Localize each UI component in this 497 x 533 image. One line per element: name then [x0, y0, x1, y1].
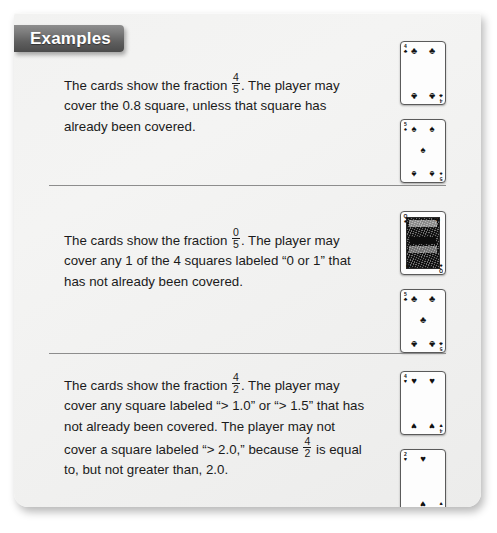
examples-banner: Examples	[14, 25, 124, 52]
card-corner-bottom-right: 5♣	[438, 340, 444, 351]
card-corner-bottom-right: 4♣	[438, 92, 444, 103]
examples-banner-label: Examples	[30, 29, 111, 49]
card-corner-bottom-right: 5♠	[438, 170, 444, 181]
page-content-area: Examples The cards show the fraction 45.…	[14, 13, 481, 507]
card-corner-top-left: Q♠	[403, 214, 409, 225]
card-pip: ♠	[427, 124, 437, 134]
card-pip: ♠	[418, 145, 428, 155]
card-four-of-clubs: 4♣ 4♣ ♣ ♣ ♣ ♣	[400, 41, 446, 105]
card-pip: ♠	[409, 169, 419, 179]
card-pip: ♣	[427, 46, 437, 56]
example-divider-2	[49, 353, 446, 354]
example-1-cards: 4♣ 4♣ ♣ ♣ ♣ ♣ 5♠ 5♠ ♠ ♠ ♠ ♠ ♠	[400, 41, 446, 183]
example-3-lead: The cards show the fraction	[64, 378, 231, 393]
card-pip: ♠	[427, 169, 437, 179]
example-2-cards: Q♠ Q♠ ♠ ♠ 5♣ 5♣ ♣ ♣ ♣ ♣ ♣	[400, 211, 446, 353]
card-pip: ♥	[427, 421, 437, 431]
example-3-text: The cards show the fraction 42. The play…	[64, 373, 369, 481]
card-corner-top-left: 2♥	[403, 452, 409, 463]
card-pip: ♠	[409, 124, 419, 134]
card-pip: ♠	[436, 216, 440, 224]
card-corner-top-left: 5♣	[403, 292, 409, 303]
fraction-denominator: 2	[303, 447, 311, 459]
card-pip: ♥	[427, 376, 437, 386]
card-corner-top-left: 4♣	[403, 44, 409, 55]
example-2-text: The cards show the fraction 05. The play…	[64, 228, 364, 292]
card-pip: ♥	[418, 499, 428, 508]
card-pip: ♥	[418, 454, 428, 464]
card-pip: ♣	[409, 294, 419, 304]
fraction-denominator: 2	[232, 383, 240, 395]
fraction-numerator: 4	[232, 72, 240, 83]
card-pip: ♥	[409, 376, 419, 386]
example-2-lead: The cards show the fraction	[64, 233, 231, 248]
card-pip: ♣	[427, 294, 437, 304]
card-five-of-spades: 5♠ 5♠ ♠ ♠ ♠ ♠ ♠	[400, 119, 446, 183]
card-pip: ♣	[409, 91, 419, 101]
example-1-lead: The cards show the fraction	[64, 78, 231, 93]
fraction-zero-fifths: 05	[232, 227, 240, 250]
card-pip: ♠	[406, 262, 410, 270]
fraction-denominator: 5	[232, 83, 240, 95]
example-divider-1	[49, 185, 446, 186]
face-card-artwork	[406, 217, 440, 269]
card-five-of-clubs: 5♣ 5♣ ♣ ♣ ♣ ♣ ♣	[400, 289, 446, 353]
fraction-four-fifths: 45	[232, 72, 240, 95]
fraction-denominator: 5	[232, 238, 240, 250]
card-two-of-hearts: 2♥ 2♥ ♥ ♥	[400, 449, 446, 507]
card-pip: ♣	[427, 339, 437, 349]
worksheet-page: Examples The cards show the fraction 45.…	[14, 13, 481, 507]
card-four-of-hearts: 4♥ 4♥ ♥ ♥ ♥ ♥	[400, 371, 446, 435]
card-corner-bottom-right: 4♥	[438, 422, 444, 433]
fraction-four-halves: 42	[232, 372, 240, 395]
card-corner-bottom-right: Q♠	[438, 262, 444, 273]
card-queen-of-spades: Q♠ Q♠ ♠ ♠	[400, 211, 446, 275]
fraction-numerator: 4	[232, 372, 240, 383]
fraction-numerator: 4	[303, 436, 311, 447]
example-3-cards: 4♥ 4♥ ♥ ♥ ♥ ♥ 2♥ 2♥ ♥ ♥	[400, 371, 446, 507]
card-pip: ♣	[427, 91, 437, 101]
fraction-four-halves-second: 42	[303, 436, 311, 459]
card-pip: ♣	[409, 339, 419, 349]
card-corner-bottom-right: 2♥	[438, 500, 444, 508]
card-corner-top-left: 4♥	[403, 374, 409, 385]
card-pip: ♣	[409, 46, 419, 56]
fraction-numerator: 0	[232, 227, 240, 238]
card-pip: ♥	[409, 421, 419, 431]
card-pip: ♣	[418, 315, 428, 325]
example-1-text: The cards show the fraction 45. The play…	[64, 73, 364, 137]
card-corner-top-left: 5♠	[403, 122, 409, 133]
